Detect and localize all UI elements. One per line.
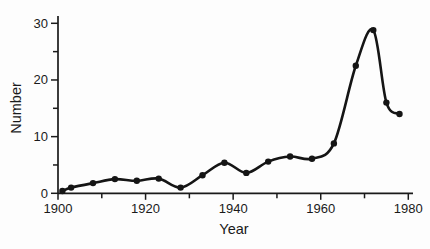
y-axis-title: Number (8, 82, 24, 134)
data-point-marker (68, 184, 74, 190)
x-tick-label: 1920 (131, 201, 160, 216)
y-tick-label: 30 (34, 16, 48, 31)
data-point-marker (134, 178, 140, 184)
x-tick-label: 1960 (306, 201, 335, 216)
data-series (59, 27, 402, 194)
x-axis-title: Year (219, 221, 248, 237)
data-point-marker (112, 176, 118, 182)
data-point-marker (370, 27, 376, 33)
x-tick-label: 1940 (219, 201, 248, 216)
data-point-marker (199, 172, 205, 178)
data-point-marker (221, 160, 227, 166)
data-point-marker (59, 188, 65, 194)
axis-ticks (51, 23, 408, 200)
x-tick-label: 1980 (394, 201, 423, 216)
data-point-marker (90, 180, 96, 186)
data-point-marker (331, 140, 337, 146)
data-point-marker (396, 111, 402, 117)
y-tick-label: 20 (34, 72, 48, 87)
line-chart-figure: 190019201940196019800102030 Year Number (0, 0, 430, 249)
data-point-marker (265, 158, 271, 164)
line-chart-canvas: 190019201940196019800102030 Year Number (0, 0, 430, 249)
y-tick-label: 0 (41, 186, 48, 201)
data-point-marker (309, 156, 315, 162)
data-point-marker (383, 99, 389, 105)
y-tick-label: 10 (34, 129, 48, 144)
x-tick-label: 1900 (44, 201, 73, 216)
data-point-marker (177, 184, 183, 190)
data-point-marker (353, 63, 359, 69)
data-point-marker (287, 153, 293, 159)
data-point-marker (243, 170, 249, 176)
data-point-marker (156, 175, 162, 181)
series-line (62, 29, 399, 191)
